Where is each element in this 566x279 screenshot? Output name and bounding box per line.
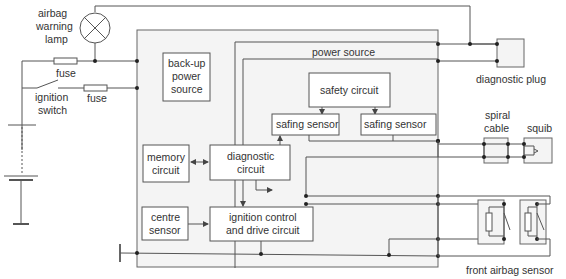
memory-circuit-label: circuit xyxy=(152,164,180,176)
front-airbag-sensor-1 xyxy=(478,200,510,244)
backup-power-label: power xyxy=(172,70,201,82)
ignition-switch-icon xyxy=(37,80,58,88)
airbag-circuit-diagram: airbag warning lamp fuse fuse ignition s… xyxy=(0,0,566,279)
centre-sensor-label: sensor xyxy=(149,224,181,236)
diagnostic-circuit-label: circuit xyxy=(237,163,265,175)
spiral-cable-label: spiral xyxy=(485,109,510,121)
diagnostic-circuit-label: diagnostic xyxy=(227,150,274,162)
backup-power-label: source xyxy=(171,83,203,95)
ignition-control-label: ignition control xyxy=(229,211,297,223)
front-airbag-sensor-label: front airbag sensor xyxy=(466,264,554,276)
safing-sensor-label: safing sensor xyxy=(276,118,339,130)
safety-circuit-label: safety circuit xyxy=(320,84,378,96)
fuse-icon xyxy=(54,58,77,64)
fuse-label: fuse xyxy=(87,92,107,104)
diagnostic-plug-label: diagnostic plug xyxy=(476,73,546,85)
ignition-control-label: and drive circuit xyxy=(226,224,300,236)
squib-label: squib xyxy=(527,122,552,134)
ignition-switch-label: switch xyxy=(38,104,67,116)
warning-lamp-label: warning xyxy=(35,20,73,32)
front-airbag-sensor-2 xyxy=(520,200,546,244)
spiral-cable-label: cable xyxy=(484,122,509,134)
safing-sensor-label: safing sensor xyxy=(364,118,427,130)
power-source-label: power source xyxy=(312,46,375,58)
warning-lamp-label: airbag xyxy=(38,7,67,19)
battery-icon xyxy=(4,125,38,224)
warning-lamp-icon xyxy=(80,13,110,43)
backup-power-label: back-up xyxy=(168,57,206,69)
warning-lamp-label: lamp xyxy=(45,33,68,45)
memory-circuit-label: memory xyxy=(147,151,186,163)
fuse-label: fuse xyxy=(56,67,76,79)
centre-sensor-label: centre xyxy=(151,211,180,223)
spiral-cable-box xyxy=(484,138,508,163)
diagnostic-plug-box xyxy=(497,39,524,67)
ignition-switch-label: ignition xyxy=(35,91,68,103)
fuse-icon xyxy=(84,85,107,91)
